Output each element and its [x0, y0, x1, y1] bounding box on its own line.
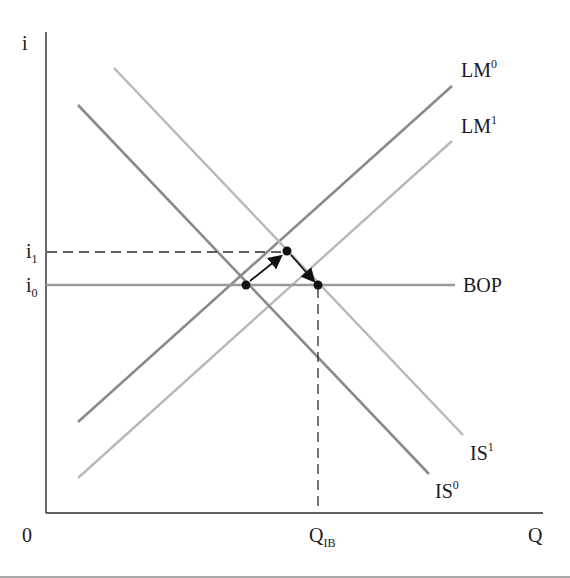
lm0-label: LM0 — [461, 57, 497, 81]
is0-label: IS0 — [435, 478, 459, 502]
y-axis-label: i — [22, 32, 28, 54]
i0-label: i0 — [26, 274, 38, 300]
origin-label: 0 — [22, 524, 32, 546]
x-axis-label: Q — [528, 524, 543, 546]
is0-curve — [78, 105, 429, 474]
lm1-curve — [78, 141, 452, 478]
final-equilibrium-point — [314, 281, 323, 290]
bop-label: BOP — [463, 274, 502, 296]
initial-equilibrium-point — [242, 281, 251, 290]
is1-label: IS1 — [470, 440, 494, 464]
is-lm-bop-diagram: i Q 0 i1 i0 QIB LM0 LM1 BOP IS1 IS0 — [0, 0, 570, 578]
i1-label: i1 — [26, 240, 38, 266]
lm1-label: LM1 — [461, 113, 497, 137]
qib-label: QIB — [309, 524, 335, 550]
lm0-curve — [78, 86, 452, 422]
adjustment-arrow-1 — [250, 257, 280, 281]
intermediate-equilibrium-point — [283, 247, 292, 256]
diagram-canvas: i Q 0 i1 i0 QIB LM0 LM1 BOP IS1 IS0 — [0, 0, 570, 578]
